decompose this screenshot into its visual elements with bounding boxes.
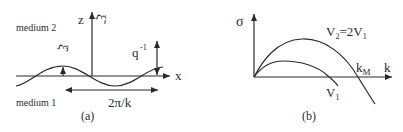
medium-2-label: medium 2 xyxy=(16,22,56,33)
medium-1-label: medium 1 xyxy=(16,97,56,108)
figure: x z ξ̃ ξ̂ q -1 2π/k medium 2 medium 1 (a… xyxy=(0,0,403,132)
xi-tilde-label: ξ̃ xyxy=(94,14,109,25)
v2-label: V2=2V1 xyxy=(326,24,367,41)
z-axis-label: z xyxy=(78,12,84,27)
k-axis-label: k xyxy=(384,60,391,75)
q-exponent: -1 xyxy=(140,43,147,52)
growth-rate-curve-v1 xyxy=(254,61,338,86)
k-max-label: kM xyxy=(356,60,371,77)
panel-a: x z ξ̃ ξ̂ q -1 2π/k medium 2 medium 1 (a… xyxy=(16,12,182,123)
panel-b: σ k V2=2V1 V1 kM (b) xyxy=(236,14,392,123)
sigma-axis-label: σ xyxy=(236,14,244,29)
q-label: q xyxy=(132,45,139,60)
caption-b: (b) xyxy=(302,109,316,123)
caption-a: (a) xyxy=(81,109,94,123)
x-axis-label-a: x xyxy=(175,68,182,83)
v1-label: V1 xyxy=(326,85,339,102)
xi-hat-label: ξ̂ xyxy=(56,44,71,53)
wavelength-label: 2π/k xyxy=(108,95,132,110)
